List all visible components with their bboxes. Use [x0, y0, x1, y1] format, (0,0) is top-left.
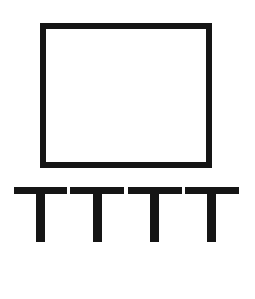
diagram-canvas [0, 0, 255, 299]
rectangle-shape [40, 23, 212, 168]
t-shape-stem [150, 187, 159, 242]
t-shape-stem [207, 187, 216, 242]
t-shape-stem [93, 187, 102, 242]
t-shape-stem [36, 187, 45, 242]
